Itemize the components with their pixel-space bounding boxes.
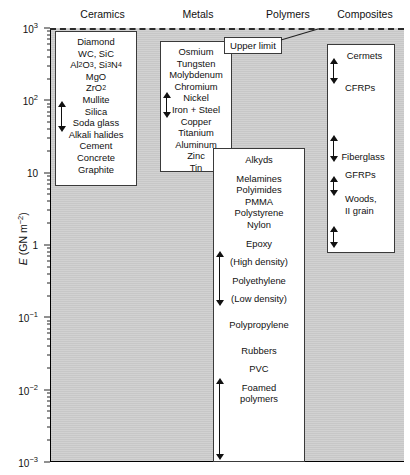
column-header-ceramics: Ceramics: [50, 8, 155, 20]
range-arrow-composites-woods-perp: [329, 226, 338, 248]
y-axis: E (GN m−2) 10310210110−110−210−3: [0, 0, 50, 475]
material-entry: Rubbers: [214, 345, 304, 357]
upper-limit-line: [50, 28, 404, 30]
material-entry: (Low density): [214, 293, 304, 305]
material-entry: Copper: [161, 116, 231, 128]
material-entry: Polystyrene: [214, 207, 304, 219]
material-entry: Nylon: [214, 219, 304, 231]
material-entry: Osmium: [161, 46, 231, 58]
y-axis-tick-label: 103: [23, 21, 38, 34]
materials-box-ceramics: Diamond WC, SiC Al2O3, Si3N4 MgO ZrO2 Mu…: [55, 31, 137, 186]
column-header-composites: Composites: [320, 8, 410, 20]
material-entry: Epoxy: [214, 238, 304, 250]
material-entry: MgO: [56, 71, 136, 83]
range-arrow-composites-cfrp: [329, 58, 338, 84]
material-entry: Diamond: [56, 36, 136, 48]
range-arrow-ceramics: [57, 101, 66, 132]
material-entry: Fiberglass: [332, 151, 394, 163]
material-entry: Cermets: [335, 50, 394, 62]
material-entry: Woods,: [345, 193, 394, 205]
material-entry: (High density): [214, 256, 304, 268]
material-entry: CFRPs: [345, 82, 394, 94]
material-entry: Molybdenum: [161, 69, 231, 81]
upper-limit-callout: Upper limit: [224, 37, 282, 54]
y-axis-tick-label: 10−1: [18, 311, 38, 324]
material-entry: Al2O3, Si3N4: [56, 59, 136, 71]
material-entry: PMMA: [214, 196, 304, 208]
material-entry: Alkyds: [214, 154, 304, 166]
range-arrow-metals: [162, 92, 171, 118]
y-axis-tick-label: 1: [32, 240, 38, 251]
range-arrow-composites-woods-parallel: [329, 176, 338, 196]
y-axis-tick-label: 10: [27, 167, 38, 178]
material-entry: polymers: [214, 393, 304, 405]
material-entry: Iron + Steel: [161, 104, 231, 116]
range-arrow-composites-gfrp: [329, 135, 338, 162]
material-entry: PVC: [214, 363, 304, 375]
material-entry: Tungsten: [161, 58, 231, 70]
material-entry: ZrO2: [56, 82, 136, 94]
material-entry: Ice: [56, 182, 136, 186]
y-axis-title: E (GN m−2): [15, 184, 29, 294]
material-entry: Alkali halides: [56, 129, 136, 141]
material-entry: Polyimides: [214, 184, 304, 196]
column-header-metals: Metals: [152, 8, 244, 20]
y-axis-tick-label: 10−3: [18, 455, 38, 468]
range-arrow-polymers-foam: [215, 378, 224, 460]
material-entry: Polypropylene: [214, 319, 304, 331]
range-arrow-polymers-pe: [215, 251, 224, 306]
material-entry: II grain: [345, 205, 394, 217]
material-entry: Silica: [56, 106, 136, 118]
materials-box-polymers: Alkyds Melamines Polyimides PMMA Polysty…: [213, 148, 305, 462]
material-entry: Chromium: [161, 81, 231, 93]
material-entry: GFRPs: [345, 169, 394, 181]
y-axis-tick-label: 102: [23, 94, 38, 107]
material-entry: Titanium: [161, 127, 231, 139]
material-entry: Mullite: [56, 94, 136, 106]
material-entry: Polyethylene: [214, 275, 304, 287]
y-axis-tick-label: 10−2: [18, 383, 38, 396]
material-entry: Melamines: [214, 173, 304, 185]
youngs-modulus-chart: E (GN m−2) 10310210110−110−210−3 Ceramic…: [0, 0, 410, 475]
material-entry: Foamed: [214, 382, 304, 394]
material-entry: Nickel: [161, 92, 231, 104]
material-entry: Graphite: [56, 164, 136, 176]
material-entry: Cement: [56, 140, 136, 152]
material-entry: WC, SiC: [56, 48, 136, 60]
material-entry: Soda glass: [56, 117, 136, 129]
material-entry: Concrete: [56, 152, 136, 164]
